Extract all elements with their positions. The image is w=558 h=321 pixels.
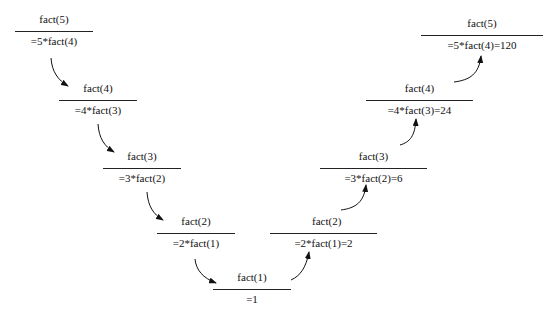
divider bbox=[320, 168, 427, 169]
arrow-up-2-3 bbox=[341, 185, 366, 210]
call-label: fact(3) bbox=[103, 150, 181, 163]
arrow-up-4-5 bbox=[454, 56, 481, 82]
node-descent-fact4: fact(4) =4*fact(3) bbox=[59, 82, 137, 118]
expression-label: =3*fact(2)=6 bbox=[320, 172, 427, 185]
expression-label: =5*fact(4) bbox=[15, 35, 93, 48]
expression-label: =4*fact(3) bbox=[59, 104, 137, 117]
node-ascent-fact3: fact(3) =3*fact(2)=6 bbox=[320, 150, 427, 186]
expression-label: =5*fact(4)=120 bbox=[421, 39, 543, 52]
arrow-down-4-3 bbox=[98, 124, 114, 152]
call-label: fact(3) bbox=[320, 150, 427, 163]
divider bbox=[421, 35, 543, 36]
node-base-fact1: fact(1) =1 bbox=[213, 271, 291, 307]
expression-label: =3*fact(2) bbox=[103, 172, 181, 185]
divider bbox=[103, 168, 181, 169]
divider bbox=[366, 100, 473, 101]
node-ascent-fact5: fact(5) =5*fact(4)=120 bbox=[421, 17, 543, 53]
call-label: fact(1) bbox=[213, 271, 291, 284]
node-ascent-fact2: fact(2) =2*fact(1)=2 bbox=[270, 215, 377, 251]
call-label: fact(4) bbox=[366, 82, 473, 95]
node-descent-fact5: fact(5) =5*fact(4) bbox=[15, 13, 93, 49]
call-label: fact(4) bbox=[59, 82, 137, 95]
divider bbox=[157, 233, 235, 234]
arrow-up-1-2 bbox=[291, 252, 309, 280]
node-ascent-fact4: fact(4) =4*fact(3)=24 bbox=[366, 82, 473, 118]
node-descent-fact2: fact(2) =2*fact(1) bbox=[157, 215, 235, 251]
expression-label: =2*fact(1) bbox=[157, 237, 235, 250]
call-label: fact(5) bbox=[421, 17, 543, 30]
call-label: fact(2) bbox=[270, 215, 377, 228]
arrow-up-3-4 bbox=[400, 119, 416, 145]
divider bbox=[213, 289, 291, 290]
divider bbox=[59, 100, 137, 101]
expression-label: =4*fact(3)=24 bbox=[366, 104, 473, 117]
expression-label: =1 bbox=[213, 293, 291, 306]
expression-label: =2*fact(1)=2 bbox=[270, 237, 377, 250]
node-descent-fact3: fact(3) =3*fact(2) bbox=[103, 150, 181, 186]
call-label: fact(2) bbox=[157, 215, 235, 228]
divider bbox=[15, 31, 93, 32]
call-label: fact(5) bbox=[15, 13, 93, 26]
divider bbox=[270, 233, 377, 234]
